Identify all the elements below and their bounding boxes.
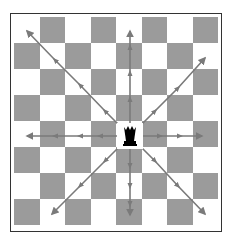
arrow-northwest — [27, 31, 118, 124]
arrow-southeast — [142, 148, 205, 214]
movement-arrows — [0, 0, 232, 243]
arrow-southwest — [52, 148, 118, 214]
queen-piece — [117, 123, 143, 149]
queen-icon — [121, 125, 139, 147]
arrow-northeast — [142, 58, 205, 124]
